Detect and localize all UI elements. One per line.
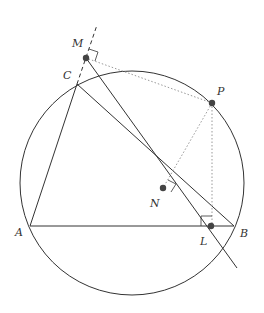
- label-a: A: [14, 226, 23, 239]
- label-l: L: [199, 235, 207, 248]
- right-angle-m: [89, 49, 98, 61]
- point-m: [83, 55, 89, 61]
- label-m: M: [71, 37, 84, 50]
- label-p: P: [216, 85, 225, 98]
- point-l: [208, 223, 214, 229]
- label-c: C: [63, 69, 72, 82]
- extension-ac-dashed: [77, 25, 97, 84]
- point-n: [160, 185, 166, 191]
- point-p: [209, 100, 215, 106]
- side-ac: [30, 84, 77, 226]
- label-n: N: [149, 197, 160, 210]
- simson-line: [86, 58, 237, 268]
- perpendicular-pm: [86, 58, 212, 103]
- geometry-diagram: M C P N A L B: [0, 0, 264, 313]
- label-b: B: [239, 227, 248, 240]
